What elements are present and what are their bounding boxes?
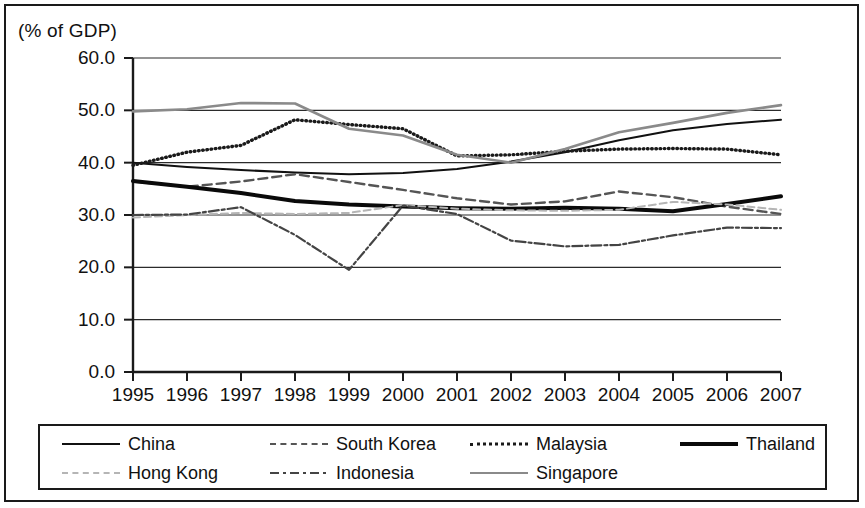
- chart-legend: ChinaSouth KoreaMalaysiaThailand Hong Ko…: [38, 424, 827, 490]
- legend-item-south-korea[interactable]: South Korea: [270, 430, 436, 458]
- legend-item-indonesia[interactable]: Indonesia: [270, 459, 414, 487]
- x-axis-tick-label: 1998: [267, 384, 323, 406]
- legend-swatch-line: [680, 442, 738, 446]
- series-line-thailand: [133, 181, 781, 211]
- legend-label: Indonesia: [336, 463, 414, 484]
- y-axis-tick-label: 30.0: [45, 204, 115, 226]
- legend-swatch-icon: [470, 437, 528, 451]
- legend-label: South Korea: [336, 434, 436, 455]
- legend-swatch-line: [270, 472, 328, 474]
- series-line-singapore: [133, 103, 781, 163]
- legend-swatch-line: [62, 472, 120, 474]
- legend-swatch-icon: [680, 437, 738, 451]
- x-axis-tick-label: 2004: [591, 384, 647, 406]
- legend-swatch-icon: [270, 466, 328, 480]
- legend-swatch-icon: [470, 466, 528, 480]
- legend-item-hong-kong[interactable]: Hong Kong: [62, 459, 218, 487]
- legend-swatch-icon: [270, 437, 328, 451]
- x-axis-tick-label: 1997: [213, 384, 269, 406]
- legend-label: Thailand: [746, 434, 815, 455]
- series-line-china: [133, 120, 781, 174]
- legend-item-malaysia[interactable]: Malaysia: [470, 430, 607, 458]
- legend-label: China: [128, 434, 175, 455]
- x-axis-tick-label: 2002: [483, 384, 539, 406]
- legend-label: Hong Kong: [128, 463, 218, 484]
- x-axis-tick-label: 2007: [753, 384, 809, 406]
- y-axis-tick-label: 40.0: [45, 152, 115, 174]
- legend-swatch-line: [270, 443, 328, 445]
- x-axis-tick-label: 2001: [429, 384, 485, 406]
- y-axis-tick-label: 10.0: [45, 309, 115, 331]
- chart-page: (% of GDP) 0.010.020.030.040.050.060.0 1…: [0, 0, 865, 508]
- series-line-malaysia: [133, 120, 781, 166]
- legend-swatch-line: [470, 443, 528, 446]
- legend-label: Malaysia: [536, 434, 607, 455]
- y-axis-tick-label: 0.0: [45, 361, 115, 383]
- y-axis-tick-label: 50.0: [45, 99, 115, 121]
- x-axis-tick-label: 2003: [537, 384, 593, 406]
- legend-label: Singapore: [536, 463, 618, 484]
- x-axis-tick-label: 2000: [375, 384, 431, 406]
- legend-item-thailand[interactable]: Thailand: [680, 430, 815, 458]
- x-axis-tick-label: 1996: [159, 384, 215, 406]
- x-axis-tick-label: 1999: [321, 384, 377, 406]
- legend-swatch-icon: [62, 437, 120, 451]
- legend-row: Hong KongIndonesiaSingapore: [40, 459, 825, 487]
- y-axis-tick-label: 20.0: [45, 256, 115, 278]
- legend-item-singapore[interactable]: Singapore: [470, 459, 618, 487]
- legend-swatch-line: [470, 472, 528, 474]
- x-axis-tick-label: 2006: [699, 384, 755, 406]
- legend-swatch-icon: [62, 466, 120, 480]
- y-axis-tick-label: 60.0: [45, 47, 115, 69]
- legend-row: ChinaSouth KoreaMalaysiaThailand: [40, 430, 825, 458]
- x-axis-tick-label: 2005: [645, 384, 701, 406]
- legend-swatch-line: [62, 443, 120, 445]
- x-axis-tick-label: 1995: [105, 384, 161, 406]
- legend-item-china[interactable]: China: [62, 430, 175, 458]
